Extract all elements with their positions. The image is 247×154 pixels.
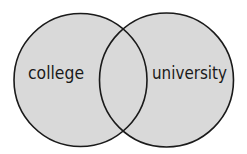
label-university: university bbox=[152, 63, 227, 83]
venn-diagram: college university bbox=[0, 0, 247, 154]
label-college: college bbox=[28, 63, 84, 83]
